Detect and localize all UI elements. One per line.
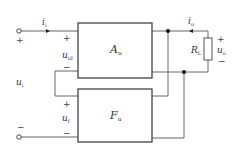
input-current-label: ii <box>42 17 47 28</box>
uo-plus-sign: + <box>217 34 225 44</box>
input-current-arrow-icon <box>46 29 50 33</box>
output-current-label: io <box>188 16 194 27</box>
output-voltage-label: uo <box>217 45 226 56</box>
load-resistor <box>204 38 212 60</box>
input-minus-terminal <box>17 135 21 139</box>
feedback-wire-1 <box>152 31 168 96</box>
uid-plus-sign: + <box>63 33 71 43</box>
uf-minus-sign: − <box>63 128 71 138</box>
input-minus-sign: − <box>17 122 25 132</box>
uf-plus-sign: + <box>63 99 71 109</box>
output-node-bottom <box>182 70 186 74</box>
feedback-voltage-label: uf <box>62 113 71 124</box>
diff-voltage-label: uid <box>62 50 73 61</box>
uid-minus-sign: − <box>63 62 71 72</box>
load-resistor-label: RL <box>190 45 202 56</box>
output-current-arrow-icon <box>189 29 193 33</box>
feedback-amplifier-diagram: ii io ui + − + uid − + uf − Au Fu RL + u… <box>0 0 240 156</box>
input-loop-wire <box>55 71 78 96</box>
uo-minus-sign: − <box>218 56 226 66</box>
input-voltage-label: ui <box>16 77 24 88</box>
input-plus-terminal <box>17 29 21 33</box>
input-plus-sign: + <box>16 35 24 45</box>
output-node-top <box>166 29 170 33</box>
